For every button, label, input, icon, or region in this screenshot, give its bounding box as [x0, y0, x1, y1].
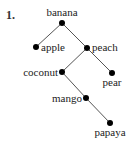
node-mango	[83, 95, 89, 101]
edge-banana-peach	[62, 23, 87, 48]
edge-mango-papaya	[86, 98, 110, 123]
node-peach	[84, 45, 90, 51]
label-pear: pear	[103, 76, 122, 88]
label-coconut: coconut	[23, 66, 58, 78]
problem-number: 1.	[6, 8, 15, 22]
edge-peach-coconut	[62, 48, 87, 72]
node-banana	[59, 20, 65, 26]
binary-tree-diagram: 1. banana apple peach coconut pear mango…	[0, 0, 135, 142]
node-coconut	[59, 69, 65, 75]
label-peach: peach	[92, 41, 118, 53]
node-apple	[33, 44, 39, 50]
label-banana: banana	[46, 6, 77, 18]
label-apple: apple	[41, 41, 65, 53]
label-papaya: papaya	[94, 126, 125, 138]
label-mango: mango	[52, 92, 82, 104]
